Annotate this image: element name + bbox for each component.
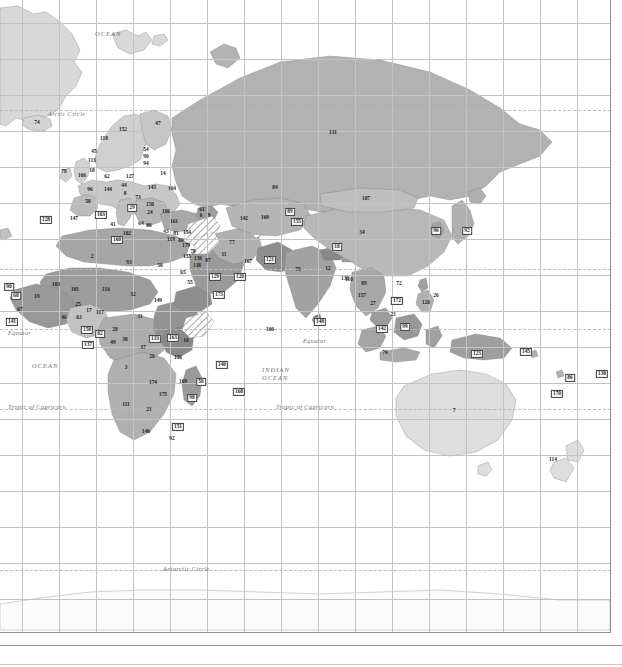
country-number-label: 179 (182, 243, 190, 248)
country-number-label: 138 (596, 370, 608, 378)
country-number-label: 154 (183, 230, 191, 235)
country-number-label: 49 (110, 340, 115, 345)
country-number-label: 41 (110, 222, 115, 227)
country-number-label: 18 (332, 243, 342, 251)
country-number-label: 63 (76, 315, 81, 320)
country-number-label: 8 (124, 191, 127, 196)
country-number-label: 79 (190, 249, 195, 254)
country-number-label: 10 (183, 338, 188, 343)
country-number-label: 137 (82, 341, 94, 349)
map-landmass-layer (0, 0, 622, 667)
country-number-label: 129 (209, 273, 221, 281)
grid-parallel (0, 23, 611, 24)
grid-parallel (0, 59, 611, 60)
country-number-label: 90 (143, 154, 148, 159)
country-number-label: 136 (194, 256, 202, 261)
frame-right-border (610, 0, 611, 632)
country-number-label: 175 (159, 392, 167, 397)
country-number-label: 37 (140, 345, 145, 350)
country-number-label: 133 (149, 335, 161, 343)
country-number-label: 38 (122, 337, 127, 342)
country-number-label: 163 (167, 334, 179, 342)
country-number-label: 113 (88, 158, 96, 163)
country-number-label: 123 (471, 350, 483, 358)
country-number-label: 20 (149, 354, 154, 359)
country-number-label: 19 (34, 294, 39, 299)
grid-parallel (0, 491, 611, 492)
region-newzealand-n (566, 440, 584, 462)
country-number-label: 26 (433, 293, 438, 298)
country-number-label: 173 (213, 291, 225, 299)
country-number-label: 47 (155, 121, 160, 126)
region-novaya-zemlya (210, 44, 240, 68)
country-number-label: 74 (34, 120, 39, 125)
country-number-label: 86 (146, 223, 151, 228)
country-number-label: 117 (96, 310, 104, 315)
country-number-label: 146 (142, 429, 150, 434)
country-number-label: 126 (422, 300, 430, 305)
country-number-label: 96 (431, 227, 441, 235)
country-number-label: 65 (180, 270, 185, 275)
country-number-label: 96 (87, 187, 92, 192)
country-number-label: 32 (130, 292, 135, 297)
grid-parallel (0, 131, 611, 132)
country-number-label: 103 (95, 211, 107, 219)
country-number-label: 166 (78, 173, 86, 178)
grid-parallel (0, 455, 611, 456)
country-number-label: 121 (264, 256, 276, 264)
country-number-label: 168 (233, 388, 245, 396)
country-number-label: 27 (370, 301, 375, 306)
country-number-label: 174 (149, 380, 157, 385)
grid-special-parallel (0, 409, 611, 410)
country-number-label: 99 (400, 323, 410, 331)
country-number-label: 3 (125, 365, 128, 370)
frame-bottom-border-3 (0, 664, 622, 665)
country-number-label: 77 (229, 240, 234, 245)
country-number-label: 131 (329, 130, 337, 135)
country-number-label: 149 (154, 298, 162, 303)
country-number-label: 7 (453, 408, 456, 413)
country-number-label: 92 (169, 436, 174, 441)
country-number-label: 89 (285, 208, 295, 216)
country-number-label: 127 (126, 174, 134, 179)
region-antarctica (0, 590, 610, 630)
region-svalbard-east (152, 34, 168, 46)
country-number-label: 110 (345, 277, 353, 282)
grid-parallel (0, 563, 611, 564)
country-number-label: 25 (75, 302, 80, 307)
country-number-label: 102 (123, 231, 131, 236)
grid-parallel (0, 239, 611, 240)
country-number-label: 2 (91, 254, 94, 259)
grid-parallel (0, 383, 611, 384)
region-iberia (70, 194, 98, 216)
country-number-label: 58 (85, 199, 90, 204)
grid-special-parallel (0, 269, 611, 270)
country-number-label: 50 (157, 263, 162, 268)
country-number-label: 167 (244, 259, 252, 264)
country-number-label: 44 (121, 183, 126, 188)
grid-parallel (0, 419, 611, 420)
country-number-label: 148 (314, 318, 326, 326)
country-number-label: 84 (272, 185, 277, 190)
country-number-label: 55 (187, 280, 192, 285)
country-number-label: 67 (17, 307, 22, 312)
country-number-label: 140 (216, 361, 228, 369)
country-number-label: 17 (86, 308, 91, 313)
country-number-label: 12 (325, 266, 330, 271)
country-number-label: 93 (126, 260, 131, 265)
country-number-label: 92 (462, 227, 472, 235)
country-number-label: 160 (111, 236, 123, 244)
country-number-label: 116 (102, 287, 110, 292)
country-number-label: 169 (261, 215, 269, 220)
world-map-figure: OCEANArctic CircleEquatorOCEANEquatorIND… (0, 0, 622, 667)
country-number-label: 68 (11, 292, 21, 300)
country-number-label: 161 (170, 219, 178, 224)
country-number-label: 142 (376, 325, 388, 333)
country-number-label: 34 (359, 230, 364, 235)
country-number-label: 101 (71, 287, 79, 292)
country-number-label: 89 (361, 281, 366, 286)
grid-parallel (0, 599, 611, 600)
frame-bottom-border-2 (0, 645, 622, 646)
country-number-label: 9 (208, 213, 211, 218)
country-number-label: 56 (196, 378, 206, 386)
